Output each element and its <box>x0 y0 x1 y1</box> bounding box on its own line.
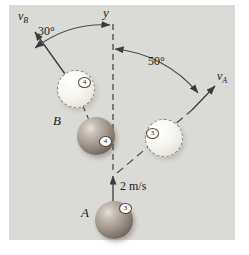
ghost-ball-b: 4 <box>57 70 95 108</box>
vb-label: vB <box>18 9 28 25</box>
ball-number-chip: 4 <box>99 136 112 147</box>
ball-number-chip: 3 <box>146 128 159 139</box>
va-subscript: A <box>222 76 227 85</box>
va-label: vA <box>217 69 227 85</box>
ball-a: 3 <box>95 201 133 239</box>
ball-a-label: A <box>81 205 89 221</box>
ball-b: 4 <box>77 117 115 155</box>
y-axis-label: y <box>103 5 109 21</box>
figure-canvas: 4 3 4 3 y vB vA 30° 50° 2 m/s B A <box>0 0 249 255</box>
vb-subscript: B <box>23 16 28 25</box>
initial-speed-label: 2 m/s <box>120 179 146 194</box>
angle-30-label: 30° <box>38 24 55 39</box>
ball-number-chip: 3 <box>119 203 132 214</box>
ball-number-chip: 4 <box>78 77 91 88</box>
ball-b-label: B <box>53 113 61 129</box>
angle-50-label: 50° <box>148 54 165 69</box>
ghost-ball-a: 3 <box>145 119 183 157</box>
